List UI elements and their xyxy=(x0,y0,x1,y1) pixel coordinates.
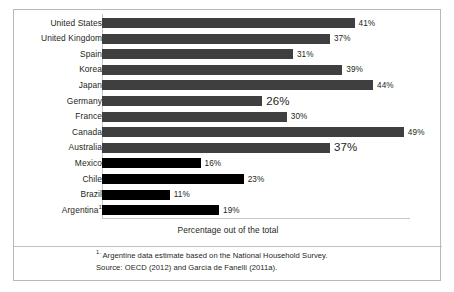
bar-japan xyxy=(102,80,373,90)
chart-row: Mexico16% xyxy=(14,156,442,171)
x-axis-label: Percentage out of the total xyxy=(14,225,442,235)
chart-row: Spain31% xyxy=(14,47,442,62)
footnote-1: 1. Argentine data estimate based on the … xyxy=(96,250,436,262)
bar-track: 30% xyxy=(102,109,442,124)
bar-value-germany: 26% xyxy=(266,94,289,109)
category-label-chile: Chile xyxy=(0,172,102,187)
bar-united-kingdom xyxy=(102,34,330,44)
footnotes: 1. Argentine data estimate based on the … xyxy=(96,250,436,274)
bar-track: 41% xyxy=(102,16,442,31)
figure-card: United States41%United Kingdom37%Spain31… xyxy=(13,9,441,281)
bar-value-argentina: 19% xyxy=(223,203,240,218)
bar-track: 31% xyxy=(102,47,442,62)
bar-value-canada: 49% xyxy=(408,125,425,140)
bar-argentina xyxy=(102,205,219,215)
bar-value-spain: 31% xyxy=(297,47,314,62)
x-axis-baseline xyxy=(102,218,410,219)
bar-value-chile: 23% xyxy=(248,172,265,187)
bar-track: 19% xyxy=(102,203,442,218)
chart-row: Argentina119% xyxy=(14,203,442,218)
category-label-mexico: Mexico xyxy=(0,156,102,171)
bar-mexico xyxy=(102,158,201,168)
chart-row: United Kingdom37% xyxy=(14,31,442,46)
chart-row: Canada49% xyxy=(14,125,442,140)
category-label-spain: Spain xyxy=(0,47,102,62)
category-label-france: France xyxy=(0,109,102,124)
bar-chile xyxy=(102,174,244,184)
chart-row: Australia37% xyxy=(14,140,442,155)
bar-track: 39% xyxy=(102,62,442,77)
bar-value-united-kingdom: 37% xyxy=(334,31,351,46)
category-label-japan: Japan xyxy=(0,78,102,93)
bar-track: 26% xyxy=(102,94,442,109)
bar-united-states xyxy=(102,18,355,28)
footnote-text-1: Argentine data estimate based on the Nat… xyxy=(101,251,328,260)
footnote-divider xyxy=(14,246,442,247)
chart-row: Chile23% xyxy=(14,172,442,187)
category-label-argentina: Argentina1 xyxy=(0,203,102,218)
bar-value-korea: 39% xyxy=(346,62,363,77)
category-label-united-states: United States xyxy=(0,16,102,31)
bar-korea xyxy=(102,65,342,75)
bar-track: 37% xyxy=(102,140,442,155)
chart-row: Japan44% xyxy=(14,78,442,93)
bar-brazil xyxy=(102,190,170,200)
bar-value-australia: 37% xyxy=(334,140,357,155)
chart-row: Korea39% xyxy=(14,62,442,77)
chart-row: United States41% xyxy=(14,16,442,31)
bar-spain xyxy=(102,49,293,59)
bar-value-japan: 44% xyxy=(377,78,394,93)
bar-france xyxy=(102,112,287,122)
category-label-united-kingdom: United Kingdom xyxy=(0,31,102,46)
bar-australia xyxy=(102,143,330,153)
bar-track: 49% xyxy=(102,125,442,140)
chart-row: France30% xyxy=(14,109,442,124)
chart-row: Germany26% xyxy=(14,94,442,109)
bar-track: 23% xyxy=(102,172,442,187)
bar-track: 44% xyxy=(102,78,442,93)
bar-value-united-states: 41% xyxy=(359,16,376,31)
bar-track: 16% xyxy=(102,156,442,171)
bar-germany xyxy=(102,96,262,106)
bar-value-france: 30% xyxy=(291,109,308,124)
category-label-germany: Germany xyxy=(0,94,102,109)
footnote-source: Source: OECD (2012) and García de Fanell… xyxy=(96,262,436,274)
bar-value-mexico: 16% xyxy=(205,156,222,171)
category-label-australia: Australia xyxy=(0,140,102,155)
bar-track: 37% xyxy=(102,31,442,46)
chart-plot-area: United States41%United Kingdom37%Spain31… xyxy=(14,10,442,223)
bar-canada xyxy=(102,127,404,137)
chart-row: Brazil11% xyxy=(14,187,442,202)
category-label-korea: Korea xyxy=(0,62,102,77)
bar-value-brazil: 11% xyxy=(174,187,190,202)
category-label-canada: Canada xyxy=(0,125,102,140)
category-label-brazil: Brazil xyxy=(0,187,102,202)
bar-track: 11% xyxy=(102,187,442,202)
